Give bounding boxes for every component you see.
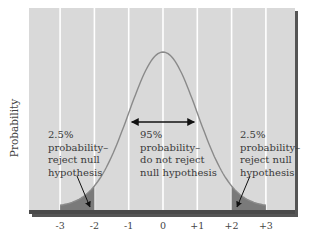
right-tail-annotation: 2.5% probability– reject null hypothesis xyxy=(240,129,300,179)
x-tick-label: -2 xyxy=(90,220,99,231)
chart: Probability -3-2-10+1+2+3 2.5% probabili… xyxy=(0,0,309,241)
x-tick-label: +2 xyxy=(225,220,239,231)
x-tick-label: -3 xyxy=(55,220,64,231)
left-tail-annotation: 2.5% probability– reject null hypothesis xyxy=(48,129,108,179)
center-annotation: 95% probability– do not reject null hypo… xyxy=(140,129,217,179)
x-tick-label: +3 xyxy=(259,220,273,231)
y-axis-label: Probability xyxy=(8,99,20,157)
x-tick-label: -1 xyxy=(124,220,133,231)
x-axis-line xyxy=(29,210,295,214)
plot-area xyxy=(0,0,309,241)
x-tick-label: 0 xyxy=(160,220,166,231)
x-tick-label: +1 xyxy=(190,220,204,231)
plot-background xyxy=(29,8,295,212)
